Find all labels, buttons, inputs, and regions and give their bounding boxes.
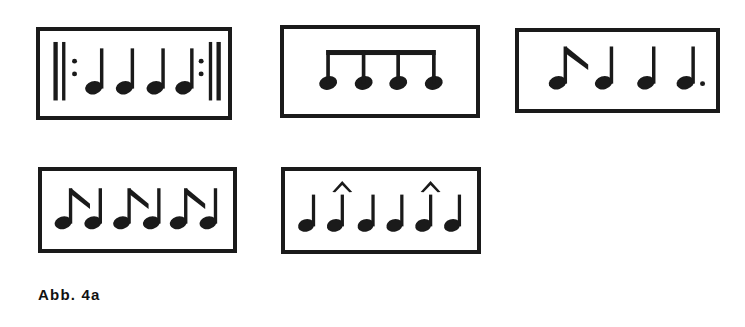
repeat-dot-lower-right (199, 72, 204, 77)
quarter-note-6 (198, 188, 219, 231)
quarter-note-3 (635, 46, 656, 91)
eighth-flag (186, 188, 205, 209)
quarter-note-2 (114, 48, 135, 96)
beamed-eighth-note-1 (317, 50, 339, 92)
beam-bar (326, 50, 435, 55)
quarter-note-2 (593, 46, 614, 91)
quarter-note-1 (83, 48, 104, 96)
repeat-barline-thick-left (53, 42, 57, 100)
quarter-note-1 (296, 195, 316, 234)
quarter-note-3 (356, 195, 376, 234)
quarter-note-2 (83, 188, 104, 231)
repeat-dot-upper-left (72, 59, 77, 64)
eighth-flag (566, 46, 588, 70)
repeat-dot-upper-right (199, 59, 204, 64)
eighth-note-flagged-1 (53, 188, 90, 231)
eighth-flag (71, 188, 90, 209)
figure-caption: Abb. 4a (38, 286, 101, 303)
eighth-note-flagged-5 (168, 188, 205, 231)
notation-staff-1 (40, 31, 228, 116)
augmentation-dot (700, 81, 705, 86)
beamed-eighth-note-4 (423, 50, 445, 92)
marcato-accent-icon (421, 181, 441, 192)
eighth-note-flagged-1 (547, 46, 588, 91)
quarter-note-4 (385, 195, 405, 234)
rhythm-pattern-box-5 (281, 167, 481, 254)
rhythm-pattern-box-2 (280, 25, 480, 118)
quarter-note-2-accented (325, 181, 352, 234)
beamed-eighth-note-2 (353, 50, 375, 92)
repeat-barline-thin-right (209, 42, 212, 100)
rhythm-pattern-box-1 (36, 27, 232, 120)
notation-staff-4 (42, 171, 233, 249)
rhythm-pattern-box-3 (515, 28, 720, 113)
beamed-eighth-note-3 (387, 50, 409, 92)
quarter-note-4 (174, 48, 195, 96)
eighth-note-flagged-3 (111, 188, 148, 231)
quarter-note-4 (141, 188, 162, 231)
figure-abb-4a: Abb. 4a (0, 0, 745, 327)
repeat-dot-lower-left (72, 72, 77, 77)
quarter-note-5-accented (413, 181, 440, 234)
marcato-accent-icon (332, 181, 352, 192)
dotted-quarter-note-4 (675, 46, 705, 91)
quarter-note-3 (145, 48, 166, 96)
notation-staff-3 (519, 32, 716, 109)
eighth-flag (130, 188, 149, 209)
notation-staff-5 (285, 171, 477, 250)
repeat-barline-thin-left (62, 42, 65, 100)
repeat-barline-thick-right (216, 42, 220, 100)
rhythm-pattern-box-4 (38, 167, 237, 253)
notation-staff-2 (284, 29, 476, 114)
quarter-note-6 (442, 195, 462, 234)
